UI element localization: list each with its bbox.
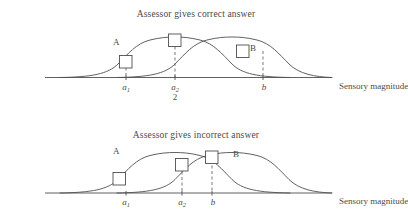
panel-incorrect-plot [0,110,392,220]
tick-label-a1-sub: 1 [127,86,130,93]
tick-label-a1: a1 [116,197,136,208]
axis-label-sensory-magnitude: Sensory magnitude [339,81,408,92]
tick-label-a1-sub: 1 [127,201,130,208]
marker-square-a1 [120,56,133,69]
tick-label-a1: a1 [116,82,136,93]
marker-square-b [237,45,250,58]
panel-correct-plot [0,0,392,110]
curve-b [117,153,332,194]
tick-label-a2-base: a [178,197,183,207]
marker-square-a2 [176,159,189,172]
axis-label-sensory-magnitude: Sensory magnitude [339,196,408,207]
tick-label-b: b [203,197,223,208]
tick-label-a2-base: a [171,82,176,92]
curve-label-a: A [113,146,120,156]
curve-label-b: B [233,149,239,159]
panel-correct-answer: Assessor gives correct answer A B a [0,0,392,110]
curve-label-b: B [250,43,256,53]
marker-square-b [206,151,219,164]
curve-label-a: A [113,37,120,47]
tick-label-a1-base: a [122,197,127,207]
curve-b [117,37,332,78]
marker-square-a1 [113,173,126,186]
tick-label-a2: a2 [172,197,192,208]
curve-a [60,153,290,194]
panel-incorrect-answer: Assessor gives incorrect answer A B a1 [0,110,392,220]
stray-glyph-two: 2 [165,92,185,102]
tick-label-a2-sub: 2 [183,201,186,208]
tick-label-b: b [254,82,274,93]
tick-label-a1-base: a [122,82,127,92]
marker-square-a2 [169,34,182,47]
